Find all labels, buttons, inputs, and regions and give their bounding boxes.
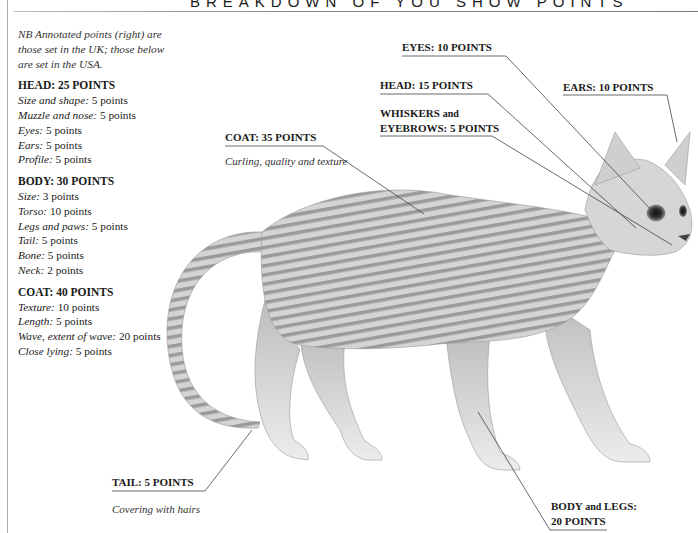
annotation-ears: EARS: 10 POINTS: [563, 80, 653, 94]
annotation-body-legs: BODY and LEGS: 20 POINTS: [551, 499, 637, 528]
annotation-head: HEAD: 15 POINTS: [380, 78, 473, 92]
annotation-eyes: EYES: 10 POINTS: [402, 40, 492, 54]
annotation-tail: TAIL: 5 POINTS: [112, 475, 194, 489]
annotation-tail-subtext: Covering with hairs: [112, 503, 200, 515]
annotation-coat: COAT: 35 POINTS: [225, 130, 316, 144]
annotation-whiskers-eyebrows: WHISKERS and EYEBROWS: 5 POINTS: [380, 106, 499, 135]
whiskers-leader: [380, 136, 672, 245]
annotation-coat-subtext: Curling, quality and texture: [225, 155, 347, 167]
